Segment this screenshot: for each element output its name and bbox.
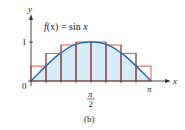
- x-tick-mid-denominator: 2: [89, 99, 94, 109]
- x-axis-arrow-icon: [165, 79, 171, 83]
- origin-label: 0: [22, 81, 27, 91]
- function-label-rest: (x) = sin: [47, 21, 83, 33]
- x-tick-end-label: π: [147, 84, 152, 94]
- y-axis-label: y: [27, 4, 32, 14]
- x-axis-label: x: [172, 76, 177, 86]
- y-tick-label: 1: [22, 37, 27, 47]
- riemann-sum-diagram: y x 0 1 f(x) = sin x π 2 π (b): [0, 0, 185, 130]
- function-label-x: x: [82, 21, 88, 32]
- caption: (b): [84, 114, 95, 124]
- function-label: f(x) = sin x: [44, 21, 88, 33]
- y-axis-arrow-icon: [29, 14, 33, 20]
- x-tick-mid-numerator: π: [88, 89, 93, 99]
